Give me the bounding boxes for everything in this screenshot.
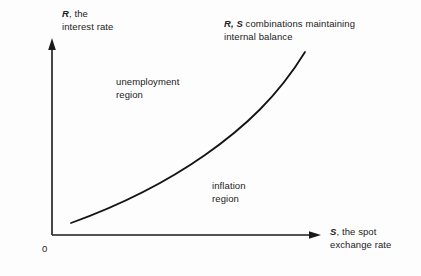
inflation-region-label: inflation region xyxy=(212,180,246,205)
y-axis-symbol: R xyxy=(62,8,69,19)
curve-annotation: R, S combinations maintaining internal b… xyxy=(224,18,355,43)
x-axis-arrowhead-icon xyxy=(309,231,321,239)
internal-balance-figure: R, the interest rate S, the spot exchang… xyxy=(0,0,421,276)
origin-label: 0 xyxy=(42,243,47,256)
y-axis-arrowhead-icon xyxy=(48,38,56,50)
y-axis-label: R, the interest rate xyxy=(62,8,113,33)
x-axis-label: S, the spot exchange rate xyxy=(330,226,391,251)
curve-annotation-text: combinations maintaining internal balanc… xyxy=(224,18,355,42)
curve-annotation-symbols: R, S xyxy=(224,18,243,29)
internal-balance-curve xyxy=(71,52,305,223)
x-axis-label-text: , the spot exchange rate xyxy=(330,226,391,250)
y-axis-label-text: , the interest rate xyxy=(62,8,113,32)
unemployment-region-label: unemployment region xyxy=(116,76,179,101)
